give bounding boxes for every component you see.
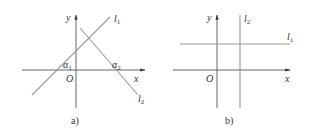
l1-label-a: l1 xyxy=(114,13,121,26)
figure-canvas: y x O l1 l2 α1 α2 a) y x O l1 l2 b) xyxy=(0,0,309,132)
y-axis-label-b: y xyxy=(206,12,212,23)
l2-label-b: l2 xyxy=(244,13,251,26)
origin-label-b: O xyxy=(206,73,213,84)
l2-label-a: l2 xyxy=(138,93,145,106)
x-axis-label-b: x xyxy=(284,73,290,84)
l1-label-b: l1 xyxy=(287,31,294,44)
panel-a: y x O l1 l2 α1 α2 a) xyxy=(22,12,145,127)
y-axis-label-a: y xyxy=(65,12,71,23)
panel-b: y x O l1 l2 b) xyxy=(173,12,294,127)
line-l2-a xyxy=(80,28,138,95)
origin-label-a: O xyxy=(66,73,73,84)
x-axis-label-a: x xyxy=(133,73,139,84)
caption-a: a) xyxy=(71,115,79,127)
caption-b: b) xyxy=(225,115,233,127)
